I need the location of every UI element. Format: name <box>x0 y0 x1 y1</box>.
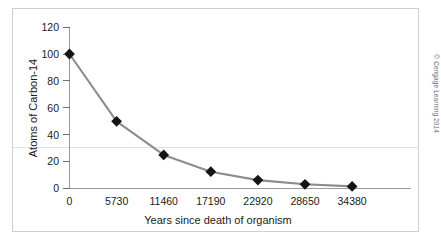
chart-frame: 0 20 40 60 80 100 120 0 5730 11460 17190… <box>12 8 419 232</box>
copyright-notice: © Cengage Learning 2014 <box>433 54 440 133</box>
y-tick-label: 60 <box>47 102 59 114</box>
data-markers <box>64 49 357 192</box>
y-tick-label: 80 <box>47 75 59 87</box>
x-tick-label: 28650 <box>290 195 319 207</box>
y-tick-label: 120 <box>41 21 59 33</box>
copyright-text: © Cengage Learning 2014 <box>433 54 440 133</box>
y-tick-label: 20 <box>47 155 59 167</box>
x-tick-label: 34380 <box>337 195 366 207</box>
y-axis-title: Atoms of Carbon-14 <box>27 59 39 157</box>
data-point-marker <box>253 175 264 186</box>
y-tick-label: 100 <box>41 48 59 60</box>
figure-container: 0 20 40 60 80 100 120 0 5730 11460 17190… <box>0 0 441 248</box>
x-axis-title: Years since death of organism <box>144 214 292 226</box>
x-tick-labels: 0 5730 11460 17190 22920 28650 34380 <box>67 195 367 207</box>
y-tick-label: 40 <box>47 129 59 141</box>
y-tick-labels: 0 20 40 60 80 100 120 <box>41 21 59 194</box>
x-tick-label: 17190 <box>196 195 225 207</box>
x-tick-label: 22920 <box>243 195 272 207</box>
y-tick-label: 0 <box>53 182 59 194</box>
x-tick-label: 0 <box>67 195 73 207</box>
carbon14-decay-chart: 0 20 40 60 80 100 120 0 5730 11460 17190… <box>13 9 418 231</box>
x-tick-label: 5730 <box>105 195 129 207</box>
data-point-marker <box>347 181 358 192</box>
data-point-marker <box>205 166 216 177</box>
x-tick-label: 11460 <box>149 195 178 207</box>
